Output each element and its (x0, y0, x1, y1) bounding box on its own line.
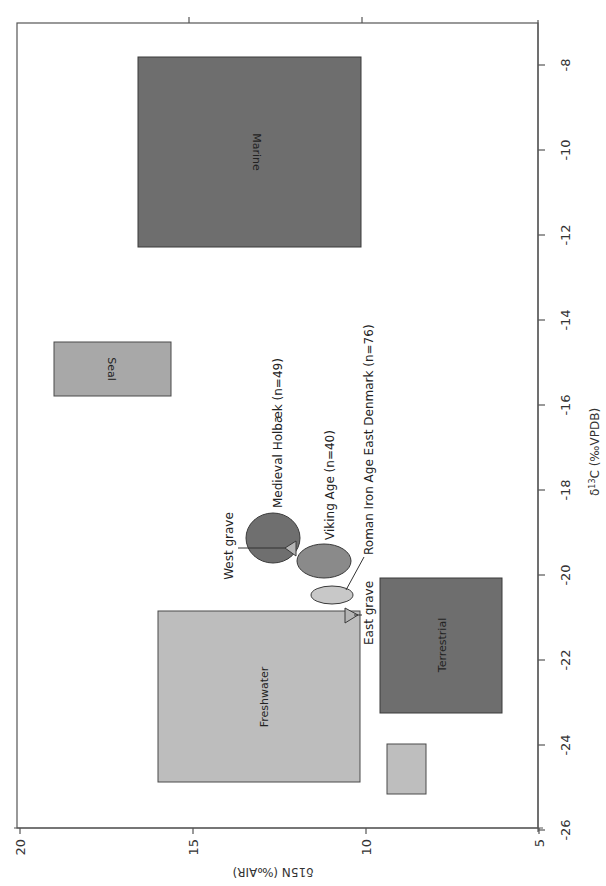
region-marine: Marine (138, 57, 361, 247)
label-east-grave: East grave (362, 581, 376, 645)
y-axis-title: δ13C (‰VPDB) (588, 408, 602, 496)
region-unlabeled-box (387, 744, 426, 794)
x-tick-10: 10 (359, 839, 374, 856)
y-axis-d13c (538, 20, 545, 832)
region-seal: Seal (54, 342, 171, 396)
y-tick--12: -12 (558, 224, 573, 245)
x-tick-15: 15 (186, 839, 201, 856)
y-axis-tick-labels: -8 -10 -12 -14 -16 -18 -20 -22 -24 -26 (558, 59, 573, 841)
y-tick--10: -10 (558, 139, 573, 160)
isotope-scatter-chart: 20 15 10 5 δ15N (‰AIR) -8 -10 -12 -14 -1… (0, 0, 606, 886)
region-terrestrial-label: Terrestrial (436, 618, 449, 673)
x-axis-d15n (14, 828, 543, 834)
y-tick--24: -24 (558, 734, 573, 755)
top-ticks (189, 17, 362, 23)
x-axis-tick-labels: 20 15 10 5 (13, 839, 547, 856)
y-tick--8: -8 (558, 59, 573, 72)
y-tick--16: -16 (558, 394, 573, 415)
x-tick-20: 20 (13, 839, 28, 856)
x-tick-5: 5 (532, 839, 547, 847)
x-axis-title: δ15N (‰AIR) (233, 865, 314, 879)
label-west-grave: West grave (222, 512, 236, 580)
y-tick--26: -26 (558, 819, 573, 840)
region-terrestrial: Terrestrial (380, 578, 502, 713)
y-tick--18: -18 (558, 479, 573, 500)
y-tick--22: -22 (558, 649, 573, 670)
region-marine-label: Marine (250, 133, 263, 171)
label-medieval-holbaek: Medieval Holbæk (n=49) (271, 358, 285, 508)
ellipse-viking-age (297, 544, 351, 578)
region-seal-label: Seal (105, 357, 118, 381)
y-tick--14: -14 (558, 309, 573, 330)
label-viking-age: Viking Age (n=40) (323, 430, 337, 540)
ellipse-medieval-holbaek (246, 513, 300, 563)
y-tick--20: -20 (558, 564, 573, 585)
region-freshwater: Freshwater (158, 611, 360, 782)
region-freshwater-label: Freshwater (258, 666, 271, 727)
label-roman-iron-age: Roman Iron Age East Denmark (n=76) (362, 324, 376, 555)
